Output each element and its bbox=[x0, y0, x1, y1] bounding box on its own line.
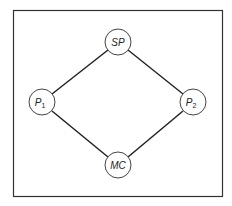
node-sp-label: SP bbox=[111, 37, 125, 48]
edge-sp-p1 bbox=[52, 50, 108, 94]
node-p2: P2 bbox=[180, 89, 206, 115]
node-mc: MC bbox=[105, 152, 131, 178]
edge-p2-mc bbox=[128, 111, 183, 157]
node-p1: P1 bbox=[29, 89, 55, 115]
edge-sp-p2 bbox=[128, 50, 183, 94]
edge-p1-mc bbox=[52, 111, 108, 157]
node-mc-label: MC bbox=[110, 160, 126, 171]
node-sp: SP bbox=[105, 29, 131, 55]
diagram-canvas: SP P1 P2 MC bbox=[0, 0, 232, 206]
